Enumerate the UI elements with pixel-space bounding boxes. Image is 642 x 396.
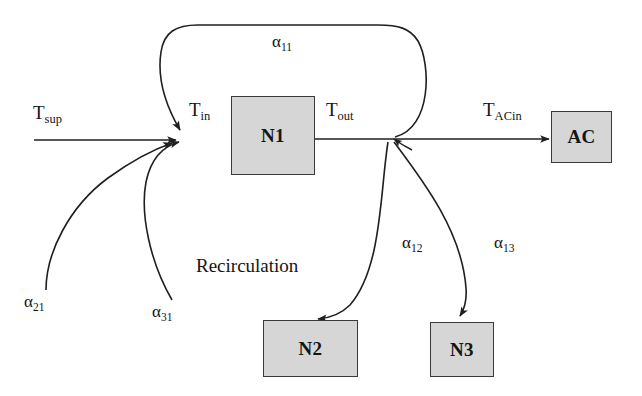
label-t-out-sub: out	[338, 109, 354, 123]
label-alpha-21-sub: 21	[33, 301, 45, 313]
label-alpha-11-sub: 11	[281, 41, 292, 53]
label-t-in-sub: in	[201, 109, 211, 123]
label-recirculation: Recirculation	[196, 256, 298, 275]
recirculation-diagram: N1 AC N2 N3 Tsup Tin Tout TACin α11 α12 …	[0, 0, 642, 396]
label-t-acin-sub: ACin	[495, 109, 522, 123]
label-alpha-31-base: α	[152, 302, 161, 321]
label-alpha-12-base: α	[402, 233, 411, 252]
node-ac[interactable]: AC	[551, 111, 612, 163]
label-alpha-12: α12	[402, 234, 422, 251]
label-alpha-11: α11	[272, 33, 292, 50]
edge-recirc-n3-to-n1	[144, 142, 179, 300]
label-alpha-21: α21	[24, 293, 44, 310]
node-ac-label: AC	[567, 126, 595, 148]
label-alpha-21-base: α	[24, 292, 33, 311]
label-alpha-12-sub: 12	[411, 242, 423, 254]
label-t-sup-base: T	[33, 102, 45, 123]
label-alpha-13: α13	[494, 234, 514, 251]
label-alpha-31: α31	[152, 303, 172, 320]
edge-recirc-n1-to-n3	[394, 142, 466, 316]
label-t-in: Tin	[189, 100, 210, 119]
label-alpha-13-base: α	[494, 233, 503, 252]
label-t-sup-sub: sup	[45, 112, 62, 126]
label-t-out-base: T	[326, 99, 338, 120]
label-t-out: Tout	[326, 100, 354, 119]
label-alpha-13-sub: 13	[503, 242, 515, 254]
node-n3[interactable]: N3	[430, 322, 494, 377]
label-t-in-base: T	[189, 99, 201, 120]
edge-recirc-n1-to-n2	[318, 142, 388, 319]
node-n2-label: N2	[299, 338, 323, 360]
label-t-sup: Tsup	[33, 103, 62, 122]
label-t-acin: TACin	[483, 100, 522, 119]
label-alpha-11-base: α	[272, 32, 281, 51]
node-n1-label: N1	[261, 125, 285, 147]
label-t-acin-base: T	[483, 99, 495, 120]
node-n2[interactable]: N2	[263, 320, 358, 377]
node-n1[interactable]: N1	[231, 96, 315, 175]
edge-recirc-n2-to-n1	[46, 143, 172, 290]
label-alpha-31-sub: 31	[161, 311, 173, 323]
node-n3-label: N3	[450, 339, 474, 361]
